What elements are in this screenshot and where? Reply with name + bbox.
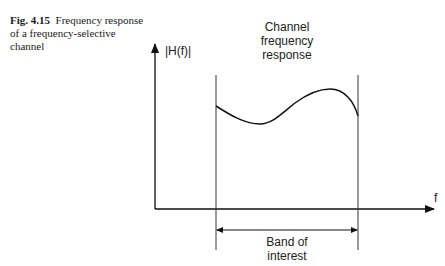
band-label-line2: interest <box>267 249 307 263</box>
band-label-line1: Band of <box>266 235 308 249</box>
curve-label-line2: frequency <box>261 34 314 48</box>
frequency-response-diagram: |H(f)| f Channel frequency response Band… <box>0 0 445 266</box>
curve-label-line3: response <box>262 48 312 62</box>
frequency-response-curve <box>216 89 358 124</box>
x-axis-label: f <box>434 191 438 205</box>
curve-label-line1: Channel <box>265 20 310 34</box>
y-axis-label: |H(f)| <box>165 44 191 58</box>
